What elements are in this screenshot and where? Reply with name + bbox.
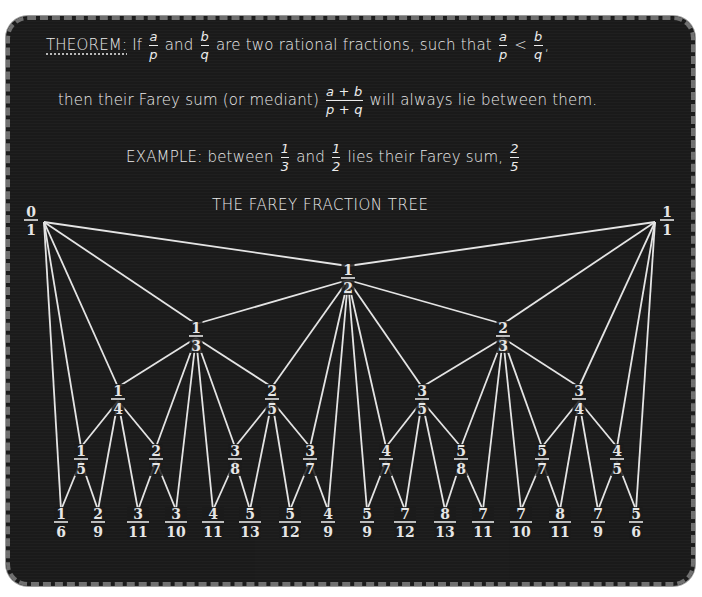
tree-node-4-7: 47 — [379, 443, 393, 477]
tree-node-5-9: 59 — [360, 506, 374, 540]
tree-nodes: 0111121323142535341527383747585745162931… — [24, 204, 674, 540]
tree-edge-2-3-to-3-4 — [503, 338, 579, 387]
node-denominator: 13 — [435, 524, 454, 540]
tree-node-7-11: 711 — [472, 506, 494, 540]
tree-node-3-8: 38 — [228, 443, 242, 477]
tree-edge-1-2-to-3-5 — [348, 280, 422, 387]
tree-edge-0-1-to-1-2 — [44, 222, 348, 266]
tree-edge-1-4-to-2-9 — [98, 401, 118, 510]
tree-edge-1-2-to-4-7 — [348, 280, 386, 447]
tree-node-2-7: 27 — [149, 443, 163, 477]
node-numerator: 2 — [93, 506, 103, 522]
tree-edge-3-5-to-7-12 — [405, 401, 422, 510]
tree-edge-2-5-to-5-13 — [250, 401, 272, 510]
farey-tree: 0111121323142535341527383747585745162931… — [0, 0, 702, 597]
tree-node-7-12: 712 — [394, 506, 416, 540]
tree-node-1-5: 15 — [74, 443, 88, 477]
tree-edge-1-2-to-2-3 — [348, 280, 503, 324]
node-numerator: 7 — [478, 506, 488, 522]
node-numerator: 5 — [537, 443, 547, 459]
node-denominator: 2 — [343, 280, 353, 296]
tree-node-4-11: 411 — [202, 506, 224, 540]
node-denominator: 8 — [230, 461, 240, 477]
node-numerator: 1 — [113, 383, 123, 399]
node-denominator: 7 — [305, 461, 315, 477]
node-numerator: 5 — [285, 506, 295, 522]
tree-node-8-13: 813 — [434, 506, 456, 540]
tree-node-3-7: 37 — [303, 443, 317, 477]
node-numerator: 8 — [555, 506, 565, 522]
tree-node-1-3: 13 — [189, 320, 203, 354]
node-denominator: 5 — [76, 461, 86, 477]
node-denominator: 8 — [456, 461, 466, 477]
tree-edge-3-5-to-8-13 — [422, 401, 445, 510]
node-denominator: 1 — [662, 222, 672, 238]
tree-edge-3-4-to-7-9 — [579, 401, 598, 510]
node-denominator: 12 — [395, 524, 414, 540]
node-numerator: 1 — [343, 262, 353, 278]
node-numerator: 7 — [400, 506, 410, 522]
node-denominator: 3 — [191, 338, 201, 354]
tree-node-2-9: 29 — [91, 506, 105, 540]
node-numerator: 2 — [498, 320, 508, 336]
tree-node-1-6: 16 — [54, 506, 68, 540]
tree-edge-1-2-to-1-3 — [196, 280, 348, 324]
tree-edge-2-5-to-5-12 — [272, 401, 290, 510]
node-numerator: 4 — [323, 506, 333, 522]
tree-node-5-8: 58 — [454, 443, 468, 477]
node-denominator: 9 — [362, 524, 372, 540]
node-numerator: 1 — [191, 320, 201, 336]
node-denominator: 11 — [550, 524, 569, 540]
tree-edge-1-3-to-1-4 — [118, 338, 196, 387]
node-numerator: 7 — [516, 506, 526, 522]
node-numerator: 4 — [612, 443, 622, 459]
tree-edge-1-3-to-2-5 — [196, 338, 272, 387]
tree-edge-1-2-to-4-9 — [328, 280, 348, 510]
tree-node-5-6: 56 — [629, 506, 643, 540]
node-numerator: 3 — [305, 443, 315, 459]
node-numerator: 4 — [381, 443, 391, 459]
node-denominator: 9 — [593, 524, 603, 540]
tree-edge-1-1-to-5-6 — [636, 222, 655, 510]
tree-node-3-11: 311 — [127, 506, 149, 540]
node-numerator: 3 — [574, 383, 584, 399]
tree-node-3-4: 34 — [572, 383, 586, 417]
tree-node-4-5: 45 — [610, 443, 624, 477]
node-denominator: 5 — [612, 461, 622, 477]
node-numerator: 0 — [26, 204, 36, 220]
tree-edge-1-2-to-5-9 — [348, 280, 367, 510]
node-denominator: 11 — [128, 524, 147, 540]
node-denominator: 9 — [323, 524, 333, 540]
tree-node-5-13: 513 — [239, 506, 261, 540]
node-numerator: 2 — [151, 443, 161, 459]
tree-edge-0-1-to-1-6 — [44, 222, 61, 510]
node-numerator: 8 — [440, 506, 450, 522]
tree-node-0-1: 01 — [24, 204, 38, 238]
node-denominator: 9 — [93, 524, 103, 540]
node-denominator: 3 — [498, 338, 508, 354]
tree-node-7-10: 710 — [510, 506, 532, 540]
node-denominator: 13 — [240, 524, 259, 540]
node-numerator: 5 — [362, 506, 372, 522]
node-numerator: 1 — [76, 443, 86, 459]
node-numerator: 7 — [593, 506, 603, 522]
tree-node-1-4: 14 — [111, 383, 125, 417]
node-denominator: 7 — [537, 461, 547, 477]
node-denominator: 7 — [151, 461, 161, 477]
tree-node-5-7: 57 — [535, 443, 549, 477]
node-numerator: 3 — [417, 383, 427, 399]
tree-edge-2-3-to-3-5 — [422, 338, 503, 387]
node-denominator: 4 — [113, 401, 123, 417]
tree-edge-1-4-to-3-11 — [118, 401, 138, 510]
tree-edge-1-2-to-3-7 — [310, 280, 348, 447]
node-denominator: 11 — [203, 524, 222, 540]
node-denominator: 5 — [417, 401, 427, 417]
node-denominator: 7 — [381, 461, 391, 477]
tree-node-3-5: 35 — [415, 383, 429, 417]
node-numerator: 3 — [230, 443, 240, 459]
node-numerator: 4 — [208, 506, 218, 522]
node-numerator: 5 — [631, 506, 641, 522]
tree-edge-3-4-to-8-11 — [560, 401, 579, 510]
node-numerator: 1 — [56, 506, 66, 522]
node-denominator: 5 — [267, 401, 277, 417]
